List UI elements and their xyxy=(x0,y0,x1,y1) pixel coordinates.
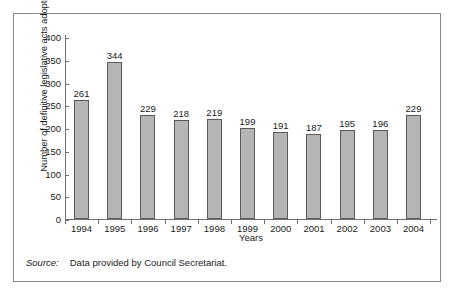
bar[interactable]: 229 xyxy=(140,115,155,219)
bar-value-label: 261 xyxy=(74,89,90,99)
bar-column[interactable]: 2181997 xyxy=(165,37,198,219)
bar-value-label: 229 xyxy=(406,104,422,114)
x-axis-line xyxy=(65,219,437,220)
y-tick-label: 0 xyxy=(56,215,61,225)
y-tick-label: 250 xyxy=(45,102,61,112)
bar[interactable]: 191 xyxy=(273,132,288,219)
bar-value-label: 219 xyxy=(206,108,222,118)
bar[interactable]: 195 xyxy=(340,130,355,219)
bar-column[interactable]: 1952002 xyxy=(331,37,364,219)
bar-value-label: 344 xyxy=(107,51,123,61)
x-tick-mark xyxy=(397,220,398,224)
y-tick-label: 150 xyxy=(45,147,61,157)
x-tick-mark xyxy=(331,220,332,224)
bar-value-label: 218 xyxy=(173,109,189,119)
bar-value-label: 199 xyxy=(240,117,256,127)
x-tick-mark xyxy=(297,220,298,224)
bar[interactable]: 187 xyxy=(306,134,321,219)
y-tick-mark xyxy=(66,220,69,221)
x-tick-mark xyxy=(131,220,132,224)
plot-area: 050100150200250300350400 261199434419952… xyxy=(65,38,440,220)
bar-chart: Number of definitive legislative acts ad… xyxy=(14,14,442,246)
bar-column[interactable]: 1962003 xyxy=(364,37,397,219)
bar-column[interactable]: 1912000 xyxy=(264,37,297,219)
x-tick-mark xyxy=(65,220,66,224)
bar-column[interactable]: 1991999 xyxy=(231,37,264,219)
bar[interactable]: 219 xyxy=(207,119,222,219)
x-tick-mark xyxy=(98,220,99,224)
x-tick-mark xyxy=(231,220,232,224)
bar-value-label: 191 xyxy=(273,121,289,131)
bar-column[interactable]: 3441995 xyxy=(98,37,131,219)
bar[interactable]: 218 xyxy=(174,120,189,219)
bar-value-label: 196 xyxy=(372,119,388,129)
bar-value-label: 229 xyxy=(140,104,156,114)
figure-frame: Number of definitive legislative acts ad… xyxy=(13,13,441,282)
y-tick-label: 400 xyxy=(45,33,61,43)
bar-column[interactable]: 2292004 xyxy=(397,37,430,219)
bar[interactable]: 199 xyxy=(240,128,255,219)
bar[interactable]: 344 xyxy=(107,62,122,219)
x-axis-title: Years xyxy=(65,233,437,243)
source-label: Source: xyxy=(26,257,59,268)
bar-column[interactable]: 2611994 xyxy=(65,37,98,219)
bar-column[interactable]: 2191998 xyxy=(198,37,231,219)
source-text: Data provided by Council Secretariat. xyxy=(70,257,227,268)
bar-column[interactable]: 1872001 xyxy=(297,37,330,219)
y-tick-label: 300 xyxy=(45,79,61,89)
y-tick-label: 350 xyxy=(45,56,61,66)
bar-column[interactable]: 2291996 xyxy=(131,37,164,219)
x-tick-mark xyxy=(165,220,166,224)
bar[interactable]: 229 xyxy=(406,115,421,219)
bar[interactable]: 196 xyxy=(373,130,388,219)
x-tick-mark xyxy=(198,220,199,224)
x-tick-mark xyxy=(430,220,431,224)
y-tick-label: 50 xyxy=(50,193,61,203)
x-tick-mark xyxy=(264,220,265,224)
y-tick-label: 200 xyxy=(45,124,61,134)
bar-value-label: 187 xyxy=(306,123,322,133)
x-tick-mark xyxy=(364,220,365,224)
y-tick-label: 100 xyxy=(45,170,61,180)
source-note: Source:Data provided by Council Secretar… xyxy=(26,257,227,268)
bar[interactable]: 261 xyxy=(74,100,89,219)
bar-value-label: 195 xyxy=(339,119,355,129)
